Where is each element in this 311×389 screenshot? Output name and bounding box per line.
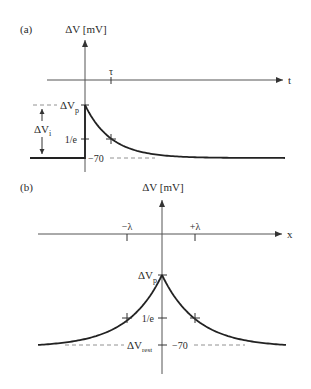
panel-a-peak-label: ΔVp	[60, 99, 79, 115]
panel-a-rest-value: −70	[88, 153, 104, 164]
panel-a-one-over-e-label: 1/e	[65, 134, 78, 145]
pos-lambda-label: +λ	[190, 221, 201, 232]
neg-lambda-cross-marker	[122, 313, 132, 323]
neg-lambda-label: −λ	[122, 221, 133, 232]
panel-b: (b) ΔV [mV] x −λ +λ ΔVp 1/e ΔVrest −70	[20, 181, 293, 374]
panel-b-peak-label: ΔVp	[138, 269, 157, 285]
decay-curve	[85, 105, 285, 158]
panel-b-x-axis-label: x	[287, 228, 293, 240]
diagram-canvas: (a) ΔV [mV] t τ ΔVp ΔVi 1/e −70 (b) ΔV […	[0, 0, 311, 389]
left-decay-curve	[38, 275, 162, 345]
panel-b-rest-label: ΔVrest	[127, 339, 152, 354]
panel-b-rest-value: −70	[172, 340, 188, 351]
panel-b-one-over-e-label: 1/e	[142, 313, 155, 324]
right-decay-curve	[162, 275, 286, 345]
panel-a-y-axis-label: ΔV [mV]	[65, 23, 106, 35]
panel-a-x-axis-label: t	[288, 74, 291, 86]
panel-b-label: (b)	[20, 181, 33, 194]
tau-label: τ	[109, 66, 113, 77]
panel-a: (a) ΔV [mV] t τ ΔVp ΔVi 1/e −70	[20, 23, 291, 172]
panel-a-label: (a)	[20, 23, 33, 36]
panel-b-y-axis-label: ΔV [mV]	[142, 181, 183, 193]
